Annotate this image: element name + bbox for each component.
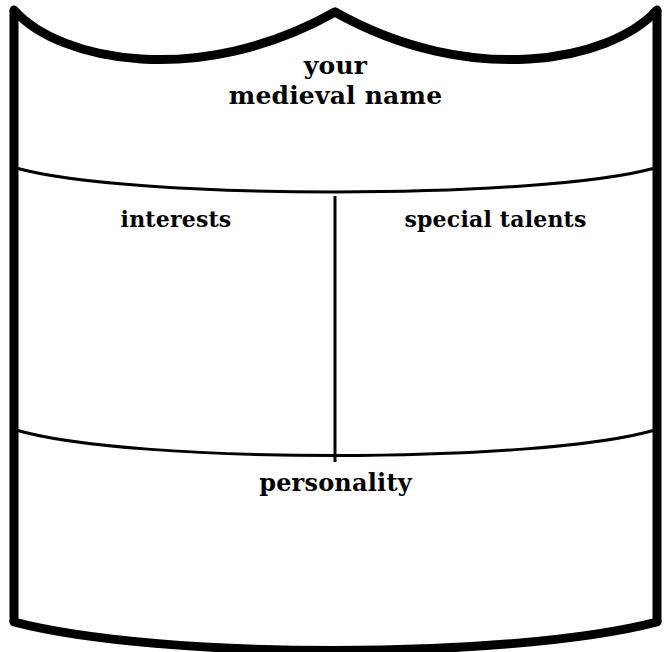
field-label-special-talents: special talents bbox=[338, 208, 653, 232]
page-title-line-2: medieval name bbox=[0, 80, 671, 111]
medieval-name-worksheet: your medieval name interests special tal… bbox=[0, 0, 671, 652]
page-title-line-1: your bbox=[0, 50, 671, 81]
field-label-interests: interests bbox=[20, 208, 332, 232]
field-label-personality: personality bbox=[0, 470, 671, 496]
page-title: your medieval name bbox=[0, 50, 671, 112]
